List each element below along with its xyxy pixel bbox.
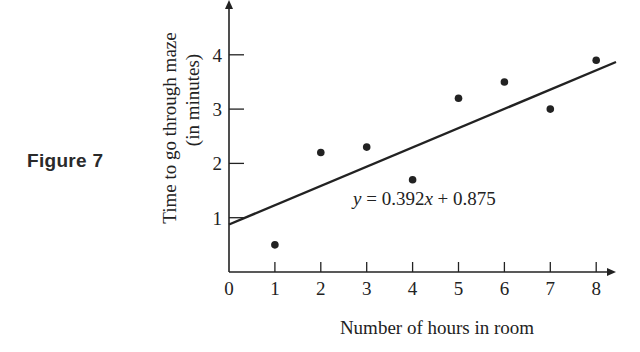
- x-tick-label: 0: [224, 278, 234, 299]
- y-tick-label: 1: [213, 208, 223, 229]
- scatter-chart: 0123456781234 y = 0.392x + 0.875 Number …: [0, 0, 640, 352]
- y-axis-arrow-icon: [225, 0, 233, 9]
- x-tick-label: 2: [316, 278, 326, 299]
- x-tick-label: 8: [591, 278, 601, 299]
- data-point: [317, 149, 325, 157]
- ticks: 0123456781234: [213, 45, 601, 299]
- x-tick-label: 3: [362, 278, 372, 299]
- x-tick-label: 7: [546, 278, 556, 299]
- data-point: [592, 56, 600, 64]
- x-axis-label: Number of hours in room: [340, 317, 534, 338]
- x-tick-label: 1: [270, 278, 280, 299]
- x-tick-label: 6: [500, 278, 510, 299]
- y-tick-label: 2: [213, 153, 223, 174]
- data-points: [271, 56, 600, 248]
- data-point: [363, 143, 371, 151]
- data-point: [271, 241, 279, 249]
- y-axis-label-units: (in minutes): [182, 54, 204, 146]
- data-point: [409, 176, 417, 184]
- x-tick-label: 4: [408, 278, 418, 299]
- axes: [225, 0, 616, 276]
- data-point: [501, 78, 509, 86]
- y-tick-label: 4: [213, 45, 223, 66]
- y-tick-label: 3: [213, 99, 223, 120]
- x-axis-arrow-icon: [607, 268, 616, 276]
- data-point: [547, 105, 555, 113]
- x-tick-label: 5: [454, 278, 464, 299]
- data-point: [455, 94, 463, 102]
- regression-equation: y = 0.392x + 0.875: [351, 188, 496, 209]
- y-axis-label: Time to go through maze: [159, 32, 180, 223]
